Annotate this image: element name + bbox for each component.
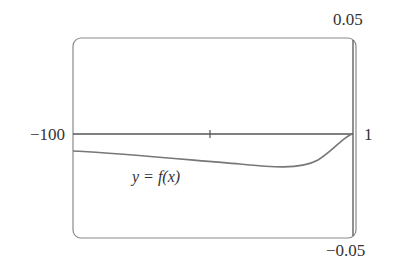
y-axis-label-top: 0.05 [333,11,363,28]
x-axis-label-right: 1 [364,126,373,143]
curve-label: y = f(x) [132,169,180,185]
plot-frame [73,38,356,238]
curve-f-of-x [73,134,352,167]
y-axis-label-bottom: −0.05 [326,242,365,259]
x-axis-label-left: −100 [30,126,65,143]
